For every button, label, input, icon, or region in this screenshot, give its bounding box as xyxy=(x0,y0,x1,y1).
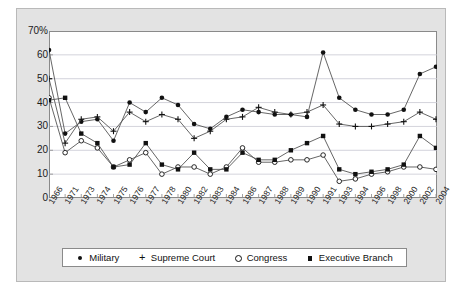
data-point-marker xyxy=(353,172,357,176)
data-point-marker xyxy=(160,96,165,101)
data-point-marker xyxy=(143,119,149,125)
data-point-marker xyxy=(79,131,83,135)
series-line xyxy=(49,50,436,141)
data-point-marker xyxy=(434,64,437,69)
data-point-marker xyxy=(49,76,52,82)
data-point-marker xyxy=(352,123,358,129)
data-point-marker xyxy=(256,110,261,115)
data-point-marker xyxy=(159,112,165,118)
data-point-marker xyxy=(402,162,406,166)
data-point-marker xyxy=(337,96,342,101)
data-point-marker xyxy=(434,167,437,172)
data-point-marker xyxy=(369,170,373,174)
legend-marker-plus-icon: + xyxy=(138,253,147,262)
plot-canvas xyxy=(49,31,437,198)
data-point-marker xyxy=(305,158,310,163)
chart-figure: 010203040506070% 19661971197319741975197… xyxy=(0,0,462,290)
data-point-marker xyxy=(418,165,423,170)
data-point-marker xyxy=(144,141,148,145)
data-point-marker xyxy=(289,148,293,152)
y-axis-labels: 010203040506070% xyxy=(16,24,48,206)
data-point-marker xyxy=(418,134,422,138)
data-point-marker xyxy=(79,138,84,143)
legend-item-military[interactable]: Military xyxy=(76,252,119,263)
data-point-marker xyxy=(192,122,197,127)
data-point-marker xyxy=(208,172,213,177)
data-point-marker xyxy=(288,112,294,118)
data-point-marker xyxy=(305,115,310,120)
y-axis-tick-label: 40 xyxy=(37,98,48,108)
legend-label: Congress xyxy=(247,252,288,263)
data-point-marker xyxy=(160,162,164,166)
y-axis-tick-label: 20 xyxy=(37,145,48,155)
data-point-marker xyxy=(176,103,181,108)
data-point-marker xyxy=(418,72,423,77)
data-point-marker xyxy=(95,141,99,145)
legend-marker-circle-open-icon xyxy=(234,253,243,262)
data-point-marker xyxy=(111,138,116,143)
data-point-marker xyxy=(434,146,437,150)
data-point-marker xyxy=(401,119,407,125)
data-point-marker xyxy=(63,96,67,100)
data-point-marker xyxy=(160,172,165,177)
chart-legend: Military+Supreme CourtCongressExecutive … xyxy=(62,248,407,267)
data-point-marker xyxy=(208,167,212,171)
data-point-marker xyxy=(240,107,245,112)
data-point-marker xyxy=(127,162,131,166)
data-point-marker xyxy=(321,153,326,158)
legend-label: Supreme Court xyxy=(151,252,215,263)
data-point-marker xyxy=(385,167,389,171)
data-point-marker xyxy=(192,150,196,154)
data-point-marker xyxy=(127,100,132,105)
legend-marker-circle-filled-icon xyxy=(76,253,85,262)
legend-item-congress[interactable]: Congress xyxy=(234,252,288,263)
legend-item-supreme-court[interactable]: +Supreme Court xyxy=(138,252,215,263)
data-point-marker xyxy=(143,150,148,155)
data-point-marker xyxy=(256,104,262,110)
x-axis-labels: 1966197119731974197519761977197819801982… xyxy=(49,199,449,243)
legend-item-executive-branch[interactable]: Executive Branch xyxy=(306,252,393,263)
legend-label: Executive Branch xyxy=(319,252,393,263)
data-point-marker xyxy=(337,179,342,184)
data-point-marker xyxy=(192,165,197,170)
data-point-marker xyxy=(417,109,423,115)
data-point-marker xyxy=(256,158,260,162)
data-point-marker xyxy=(49,98,51,102)
data-point-marker xyxy=(385,112,390,117)
legend-label: Military xyxy=(89,252,119,263)
data-point-marker xyxy=(63,150,68,155)
data-point-marker xyxy=(337,167,341,171)
y-axis-tick-label: 70% xyxy=(28,26,48,36)
y-axis-tick-label: 50 xyxy=(37,74,48,84)
data-point-marker xyxy=(369,123,375,129)
series-military xyxy=(49,48,437,143)
data-point-marker xyxy=(321,134,325,138)
data-point-marker xyxy=(305,141,309,145)
data-point-marker xyxy=(401,107,406,112)
data-point-marker xyxy=(49,48,51,53)
data-point-marker xyxy=(240,146,245,151)
data-point-marker xyxy=(369,112,374,117)
y-axis-tick-label: 10 xyxy=(37,169,48,179)
data-point-marker xyxy=(353,107,358,112)
data-point-marker xyxy=(289,158,294,163)
data-point-marker xyxy=(127,158,132,163)
data-point-marker xyxy=(433,116,437,122)
data-point-marker xyxy=(353,177,358,182)
data-point-marker xyxy=(273,158,277,162)
data-point-marker xyxy=(111,165,115,169)
data-point-marker xyxy=(176,167,180,171)
data-point-marker xyxy=(321,50,326,55)
y-axis-tick-label: 60 xyxy=(37,50,48,60)
data-point-marker xyxy=(240,150,244,154)
data-point-marker xyxy=(143,110,148,115)
data-point-marker xyxy=(240,114,246,120)
legend-marker-square-filled-icon xyxy=(306,253,315,262)
data-point-marker xyxy=(224,167,228,171)
y-axis-tick-label: 30 xyxy=(37,121,48,131)
